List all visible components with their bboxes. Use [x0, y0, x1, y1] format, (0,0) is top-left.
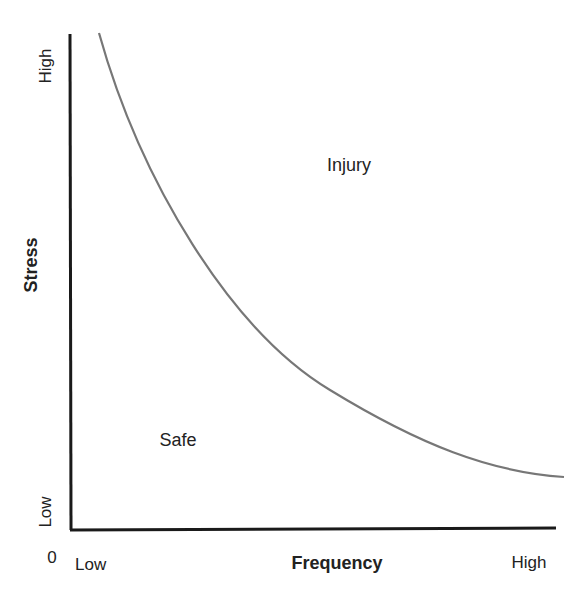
y-axis-title: Stress — [21, 237, 41, 292]
y-tick-high: High — [36, 49, 55, 84]
y-axis — [70, 34, 71, 530]
x-axis — [70, 528, 556, 530]
injury-region-label: Injury — [327, 155, 371, 175]
safe-region-label: Safe — [159, 430, 196, 450]
x-tick-low: Low — [75, 555, 107, 574]
x-tick-high: High — [512, 553, 547, 572]
injury-threshold-curve — [99, 33, 564, 477]
x-axis-title: Frequency — [291, 553, 382, 573]
stress-frequency-chart: High Stress Low 0 Low Frequency High Inj… — [0, 0, 587, 599]
y-tick-low: Low — [36, 496, 55, 528]
origin-label: 0 — [47, 548, 56, 567]
